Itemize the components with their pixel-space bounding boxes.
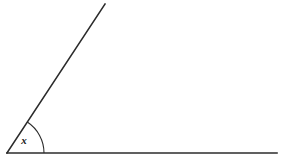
angle-diagram-svg	[0, 0, 281, 164]
diagonal-ray	[7, 4, 105, 153]
angle-label-x: x	[17, 132, 31, 148]
angle-diagram-canvas: x	[0, 0, 281, 164]
